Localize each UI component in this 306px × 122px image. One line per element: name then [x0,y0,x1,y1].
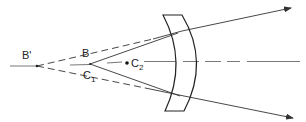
point-b [89,63,91,65]
label-c1: C1 [83,69,96,84]
label-b: B [82,47,89,59]
optics-diagram: B' B C2 C1 [0,0,306,122]
rays-from-b [90,8,293,118]
point-c2 [125,61,129,65]
label-b-prime: B' [22,49,31,61]
point-b-prime [36,65,39,68]
label-c2: C2 [131,57,144,72]
